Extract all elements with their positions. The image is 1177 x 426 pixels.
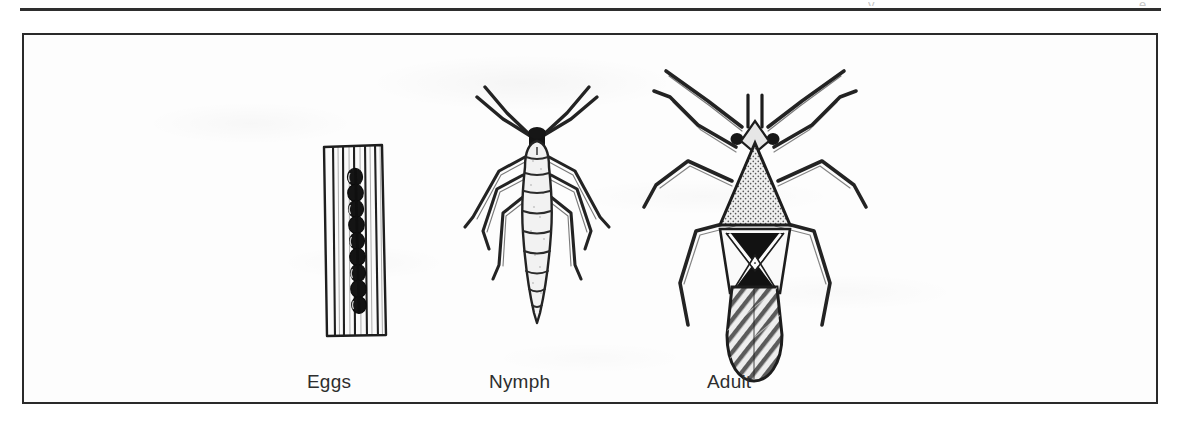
running-head-fragment-right: e — [1139, 0, 1147, 6]
caption-adult: Adult — [707, 371, 751, 393]
caption-eggs: Eggs — [307, 371, 351, 393]
caption-nymph: Nymph — [489, 371, 550, 393]
eggs-illustration — [267, 35, 457, 406]
adult-wing-x-marking — [720, 229, 790, 293]
nymph-body — [522, 141, 552, 323]
adult-illustration — [622, 35, 887, 406]
running-head-fragment-left: y — [868, 0, 875, 6]
figure-frame: Eggs Nymph Adult — [22, 33, 1158, 404]
page-header-rule — [20, 8, 1161, 11]
nymph-illustration — [437, 35, 637, 406]
adult-pronotum — [720, 143, 790, 225]
